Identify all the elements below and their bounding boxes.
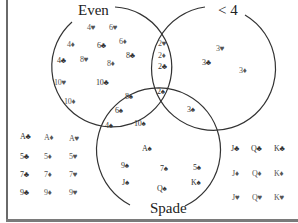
card-label: 6♣ [97,42,106,50]
card-label: 9♣ [20,189,29,197]
card-label: 7♣ [20,171,29,179]
less-than-4-circle [152,7,276,130]
card-label: 7♠ [160,165,168,173]
card-label: K♣ [274,145,285,153]
even-set-label: Even [78,3,109,18]
card-label: J♦ [232,170,239,178]
card-label: 4♣ [57,57,66,65]
card-label: 5♥ [69,153,77,161]
card-label: 3♣ [202,59,211,67]
card-label: 4♥ [87,24,95,32]
less-than-4-set-label: < 4 [218,3,238,18]
card-label: 10♠ [134,120,146,128]
card-label: Q♦ [252,170,261,178]
card-label: A♦ [44,134,53,142]
card-label: A♥ [69,135,79,143]
card-label: 3♦ [239,67,247,75]
venn-diagram-figure: Even < 4 Spade 4♥6♥4♦6♣6♦4♣8♥8♦8♣10♥10♣1… [0,0,298,223]
card-label: 2♣ [158,63,167,71]
card-label: A♠ [142,145,152,153]
card-label: 4♦ [67,41,75,49]
card-label: Q♠ [157,185,167,193]
card-label: 8♠ [125,93,133,101]
card-label: J♥ [232,194,239,202]
card-label: J♣ [231,145,239,153]
card-label: 4♠ [105,122,113,130]
card-label: 7♥ [69,171,77,179]
card-label: 8♥ [80,56,88,64]
card-label: K♥ [274,194,284,202]
card-label: 9♥ [69,189,77,197]
card-label: K♠ [191,179,201,187]
card-label: Q♣ [251,145,262,153]
card-label: 2♥ [158,40,166,48]
card-label: K♦ [274,170,283,178]
card-label: 3♥ [216,45,224,53]
card-label: A♣ [20,133,31,141]
card-label: Q♥ [252,194,262,202]
card-label: 8♣ [126,52,135,60]
card-label: 5♣ [20,153,29,161]
spade-set-label: Spade [150,201,187,216]
card-label: 6♥ [109,24,117,32]
card-label: 3♠ [187,106,195,114]
card-label: 5♠ [193,164,201,172]
card-label: 10♥ [54,79,66,87]
card-label: 2♦ [158,52,166,60]
card-label: 7♦ [44,171,52,179]
card-label: 9♦ [44,189,52,197]
card-label: 6♦ [119,38,127,46]
card-label: 5♦ [44,153,52,161]
card-label: 10♦ [64,98,75,106]
card-label: 10♣ [96,79,109,87]
card-label: 9♠ [121,162,129,170]
card-label: 2♠ [157,88,165,96]
card-label: J♠ [122,179,129,187]
card-label: 6♠ [115,107,123,115]
card-label: 8♦ [107,60,115,68]
